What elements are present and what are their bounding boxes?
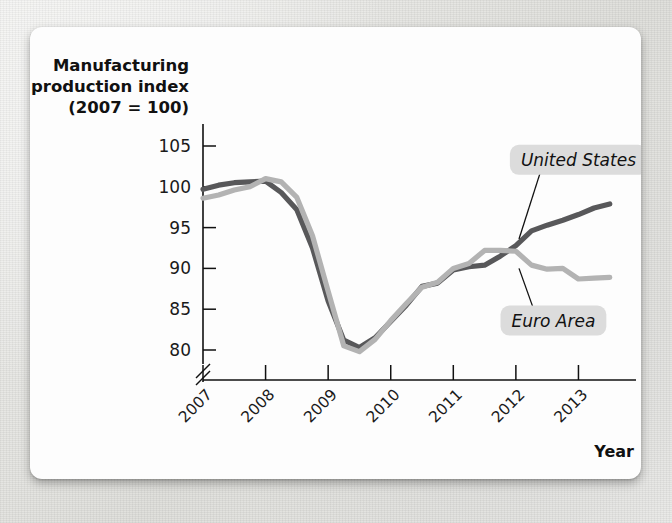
x-tick-label-2007: 2007 [175,386,216,427]
y-tick-label-105: 105 [159,136,191,156]
annotation-label-united-states: United States [521,150,636,170]
y-tick-label-90: 90 [169,258,191,278]
x-tick-label-2009: 2009 [300,386,341,427]
y-axis-title-line-3: (2007 = 100) [68,98,189,117]
y-tick-label-100: 100 [159,177,191,197]
y-axis-title-line-1: Manufacturing [53,56,189,75]
x-tick-label-2013: 2013 [551,386,592,427]
x-axis-title: Year [593,442,634,461]
figure-card: 1051009590858020072008200920102011201220… [30,27,641,479]
y-tick-label-80: 80 [169,340,191,360]
annotation-label-euro-area: Euro Area [512,311,596,331]
line-chart: 1051009590858020072008200920102011201220… [30,27,641,479]
x-tick-label-2008: 2008 [238,386,279,427]
y-tick-label-85: 85 [169,299,191,319]
y-tick-label-95: 95 [169,218,191,238]
leader-line-2 [519,268,533,308]
x-tick-label-2011: 2011 [425,386,466,427]
x-tick-label-2012: 2012 [488,386,529,427]
y-axis-title-line-2: production index [31,77,189,96]
x-tick-label-2010: 2010 [363,386,404,427]
